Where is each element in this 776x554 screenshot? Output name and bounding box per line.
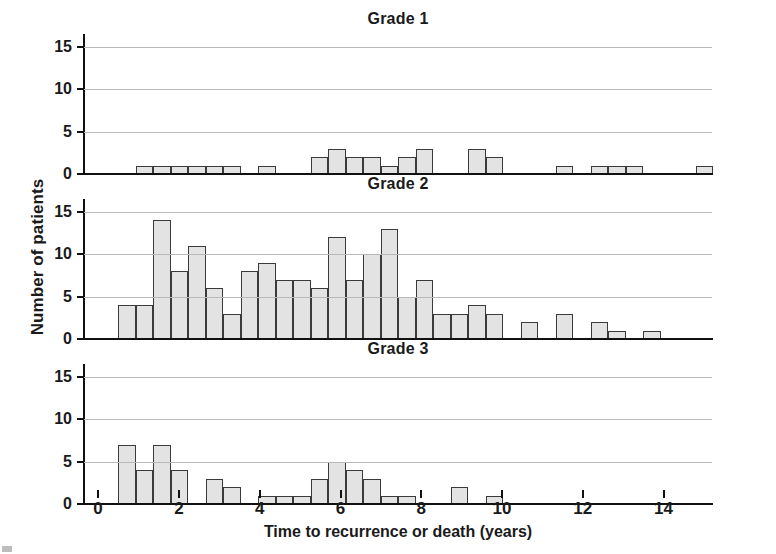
- histogram-bar: [416, 280, 434, 339]
- y-tick-label-5: 5: [38, 289, 72, 305]
- y-tick-label-10: 10: [38, 411, 72, 427]
- histogram-bar: [468, 149, 486, 175]
- histogram-bar: [171, 271, 189, 339]
- panel-title-grade-1: Grade 1: [84, 10, 712, 28]
- histogram-bar: [258, 263, 276, 339]
- histogram-bar: [241, 271, 259, 339]
- x-tick-2: [178, 490, 180, 498]
- panel-title-grade-2: Grade 2: [84, 175, 712, 193]
- histogram-bar: [381, 229, 399, 339]
- y-tick-10: [77, 88, 84, 90]
- plot-area-grade-2: 051015: [84, 199, 712, 339]
- y-tick-label-0: 0: [38, 496, 72, 512]
- x-tick-8: [420, 490, 422, 498]
- histogram-bar: [416, 149, 434, 175]
- histogram-bar: [328, 149, 346, 175]
- histogram-bar: [521, 322, 539, 339]
- gridline-y-10: [84, 254, 712, 255]
- histogram-bar: [398, 297, 416, 339]
- y-tick-label-5: 5: [38, 454, 72, 470]
- histogram-bar: [486, 157, 504, 174]
- x-axis-title: Time to recurrence or death (years): [84, 523, 712, 541]
- gridline-y-10: [84, 89, 712, 90]
- x-tick-label-0: 0: [78, 499, 118, 519]
- bars-grade-2: [84, 199, 712, 339]
- y-tick-label-0: 0: [38, 331, 72, 347]
- x-tick-12: [582, 490, 584, 498]
- histogram-bar: [451, 314, 469, 340]
- y-tick-label-15: 15: [38, 39, 72, 55]
- y-tick-5: [77, 131, 84, 133]
- x-tick-label-6: 6: [321, 499, 361, 519]
- histogram-bar: [223, 314, 241, 340]
- histogram-bar: [293, 280, 311, 339]
- histogram-figure: Number of patients Grade 1 051015 Grade …: [0, 0, 776, 554]
- histogram-bar: [136, 305, 154, 339]
- histogram-bar: [486, 314, 504, 340]
- x-tick-label-10: 10: [482, 499, 522, 519]
- y-tick-15: [77, 46, 84, 48]
- histogram-bar: [346, 157, 364, 174]
- y-tick-label-5: 5: [38, 124, 72, 140]
- y-tick-label-0: 0: [38, 166, 72, 182]
- histogram-bar: [346, 280, 364, 339]
- y-tick-10: [77, 418, 84, 420]
- bars-grade-1: [84, 34, 712, 174]
- x-tick-label-2: 2: [159, 499, 199, 519]
- y-tick-5: [77, 296, 84, 298]
- histogram-bar: [591, 322, 609, 339]
- x-tick-10: [501, 490, 503, 498]
- x-tick-6: [340, 490, 342, 498]
- y-tick-label-15: 15: [38, 369, 72, 385]
- y-tick-15: [77, 376, 84, 378]
- gridline-y-5: [84, 132, 712, 133]
- y-tick-0: [77, 173, 84, 175]
- x-tick-4: [259, 490, 261, 498]
- x-tick-label-14: 14: [644, 499, 684, 519]
- gridline-y-5: [84, 462, 712, 463]
- histogram-bar: [468, 305, 486, 339]
- gridline-y-15: [84, 212, 712, 213]
- x-tick-label-12: 12: [563, 499, 603, 519]
- gridline-y-10: [84, 419, 712, 420]
- bars-grade-3: [84, 364, 712, 504]
- gridline-y-15: [84, 47, 712, 48]
- histogram-bar: [276, 280, 294, 339]
- histogram-bar: [153, 220, 171, 339]
- histogram-bar: [556, 314, 574, 340]
- y-tick-10: [77, 253, 84, 255]
- histogram-bar: [118, 305, 136, 339]
- histogram-bar: [311, 157, 329, 174]
- y-tick-15: [77, 211, 84, 213]
- histogram-bar: [398, 157, 416, 174]
- y-tick-label-15: 15: [38, 204, 72, 220]
- histogram-bar: [363, 157, 381, 174]
- y-tick-0: [77, 338, 84, 340]
- x-tick-label-8: 8: [401, 499, 441, 519]
- x-tick-0: [97, 490, 99, 498]
- y-tick-5: [77, 461, 84, 463]
- histogram-bar: [433, 314, 451, 340]
- y-tick-label-10: 10: [38, 81, 72, 97]
- plot-area-grade-1: 051015: [84, 34, 712, 174]
- y-tick-label-10: 10: [38, 246, 72, 262]
- histogram-bar: [328, 237, 346, 339]
- histogram-bar: [188, 246, 206, 339]
- x-tick-label-4: 4: [240, 499, 280, 519]
- gridline-y-15: [84, 377, 712, 378]
- plot-area-grade-3: 051015: [84, 364, 712, 504]
- panel-title-grade-3: Grade 3: [84, 340, 712, 358]
- gridline-y-5: [84, 297, 712, 298]
- x-tick-14: [663, 490, 665, 498]
- page-corner-artifact: [2, 546, 12, 552]
